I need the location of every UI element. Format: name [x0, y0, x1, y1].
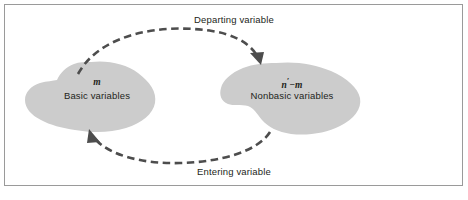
basic-variables-label: Basic variables	[64, 90, 130, 101]
nonbasic-symbol-rest: −m	[289, 80, 302, 90]
basic-variables-count-symbol: m	[93, 77, 100, 87]
departing-variable-label: Departing variable	[194, 14, 274, 25]
entering-variable-curve	[96, 132, 270, 163]
nonbasic-variables-label: Nonbasic variables	[251, 90, 334, 101]
nonbasic-variables-count-symbol: n′−m	[282, 76, 303, 90]
entering-variable-label: Entering variable	[197, 166, 271, 177]
simplex-basis-exchange-diagram: Departing variable Entering variable m B…	[0, 0, 468, 200]
departing-variable-arrowhead	[250, 52, 264, 65]
